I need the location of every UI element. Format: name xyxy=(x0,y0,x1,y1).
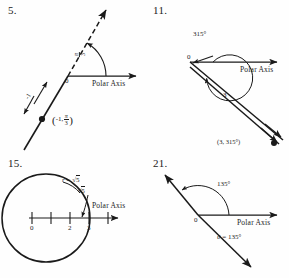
equation-radicand-15: 5 xyxy=(76,175,81,184)
panel-5-graphic xyxy=(0,0,145,150)
angle-arc-5 xyxy=(87,43,106,76)
ray-arrowhead-a-11 xyxy=(265,124,281,137)
terminal-ray-upper-21 xyxy=(165,175,198,215)
equation-variable-15: r xyxy=(62,176,65,184)
plotted-point-11 xyxy=(271,140,277,146)
panel-5: 5. xyxy=(0,0,145,150)
circle-equation-label-15: r = √5 xyxy=(62,177,80,184)
panel-21-graphic xyxy=(145,155,289,278)
angle-label-5: π 3 xyxy=(77,48,82,61)
theta-value-21: 135° xyxy=(228,233,241,241)
theta-equals-21: = xyxy=(222,233,226,241)
equation-equals-15: = xyxy=(66,176,70,184)
point-paren-close-5: ) xyxy=(69,114,73,126)
panel-21: 21. 0 Polar Axis 135° θ = xyxy=(145,155,289,278)
figure-page: 5. xyxy=(0,0,289,278)
direction-arrow-up-5 xyxy=(34,82,47,104)
panel-15: 15. xyxy=(0,155,145,278)
angle-label-11: 315° xyxy=(193,31,206,38)
point-coordinate-label-11: (3, 315°) xyxy=(217,139,240,146)
panel-11: 11. 0 xyxy=(145,0,289,155)
polar-axis-label-5: Polar Axis xyxy=(92,80,125,88)
radius-callout-label-15: √5 xyxy=(78,188,85,195)
origin-label-21: 0 xyxy=(194,217,198,224)
ray-arrowhead-b-11 xyxy=(261,128,277,142)
theta-equation-label-21: θ = 135° xyxy=(217,234,241,241)
radius-label-11: 3 xyxy=(223,92,227,99)
panel-15-graphic xyxy=(0,155,145,278)
origin-label-11: 0 xyxy=(187,54,191,61)
angle-arc-21 xyxy=(182,186,229,215)
angle-label-21: 135° xyxy=(217,181,230,188)
angle-fraction-numerator-5: π xyxy=(73,52,80,57)
angle-fraction-denominator-5: 3 xyxy=(80,52,86,57)
axis-tick-label-0: 0 xyxy=(30,225,34,232)
point-r-value-5: -1, xyxy=(56,115,64,123)
polar-axis-label-15: Polar Axis xyxy=(92,202,125,210)
origin-label-5: 0 xyxy=(65,78,69,85)
panel-11-graphic xyxy=(145,0,289,155)
polar-axis-label-21: Polar Axis xyxy=(237,219,270,227)
axis-tick-label-3: 3 xyxy=(87,225,91,232)
angle-fraction-5: π 3 xyxy=(73,52,86,57)
callout-radicand-15: 5 xyxy=(81,186,85,194)
theta-symbol-21: θ xyxy=(217,233,220,241)
polar-axis-label-11: Polar Axis xyxy=(240,66,273,74)
point-coordinate-label-5: (-1,π3) xyxy=(52,113,73,126)
plotted-point-5 xyxy=(39,116,45,122)
axis-tick-label-2: 2 xyxy=(68,225,72,232)
